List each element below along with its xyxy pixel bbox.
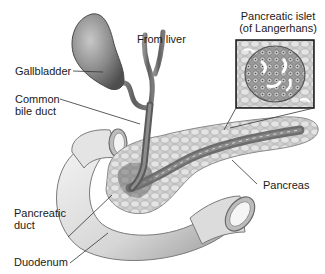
label-pancreatic-islet-line2: (of Langerhans) (238, 22, 318, 34)
label-common-bile-duct-line1: Common (15, 93, 60, 105)
label-pancreatic-duct-line1: Pancreatic (14, 207, 66, 219)
islet-inset (224, 40, 314, 130)
label-pancreatic-duct-line2: duct (14, 219, 66, 231)
leader-pancreas (232, 160, 257, 184)
pancreas-diagram: Gallbladder From liver Common bile duct … (0, 0, 325, 274)
label-pancreatic-islet: Pancreatic islet (of Langerhans) (238, 10, 318, 34)
label-pancreatic-duct: Pancreatic duct (14, 207, 66, 231)
label-pancreas: Pancreas (263, 179, 309, 191)
pancreas-shape (106, 117, 318, 214)
label-pancreatic-islet-line1: Pancreatic islet (238, 10, 318, 22)
label-common-bile-duct: Common bile duct (15, 93, 60, 117)
label-duodenum: Duodenum (14, 256, 68, 268)
gallbladder-shape (72, 14, 124, 90)
label-common-bile-duct-line2: bile duct (15, 105, 60, 117)
label-gallbladder: Gallbladder (15, 65, 71, 77)
label-from-liver: From liver (137, 33, 186, 45)
leader-common-bile-duct (60, 99, 140, 124)
